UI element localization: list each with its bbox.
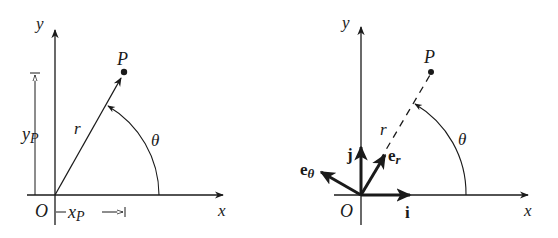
left-x-axis-label: x <box>217 201 226 220</box>
unit-vector-etheta <box>321 172 361 195</box>
unit-etheta-label: eθ <box>300 160 315 181</box>
unit-i-label: i <box>405 203 410 222</box>
unit-er-sub: r <box>396 152 402 167</box>
left-angle-arc <box>108 106 159 195</box>
right-origin-label: O <box>340 201 353 221</box>
left-panel: y x O P r θ xP yP <box>20 14 226 225</box>
xp-label-sub: P <box>75 209 85 224</box>
right-angle-label: θ <box>458 130 466 149</box>
left-point-p-dot <box>121 69 127 75</box>
unit-j-label: j <box>346 145 353 164</box>
unit-etheta-sub: θ <box>308 166 315 181</box>
yp-label: yP <box>20 124 39 146</box>
unit-er-label: er <box>388 146 402 167</box>
right-point-p-dot <box>428 69 434 75</box>
left-origin-label: O <box>35 201 48 221</box>
right-radius-label: r <box>380 120 387 139</box>
left-angle-label: θ <box>151 131 159 150</box>
right-point-p-label: P <box>423 47 435 67</box>
yp-label-main: y <box>20 124 30 144</box>
xp-label: xP <box>67 202 85 224</box>
right-y-axis-label: y <box>340 13 350 32</box>
right-x-axis-label: x <box>523 201 532 220</box>
polar-coordinates-figure: y x O P r θ xP yP y x O P r θ <box>0 0 558 238</box>
left-radius-vector <box>55 78 121 195</box>
right-panel: y x O P r θ i j er eθ <box>300 13 532 225</box>
unit-vector-er <box>361 155 385 195</box>
yp-label-sub: P <box>29 131 39 146</box>
xp-label-main: x <box>67 202 76 222</box>
left-point-p-label: P <box>116 49 128 69</box>
left-radius-label: r <box>74 119 81 138</box>
right-angle-arc <box>415 104 466 195</box>
left-y-axis-label: y <box>34 14 44 33</box>
